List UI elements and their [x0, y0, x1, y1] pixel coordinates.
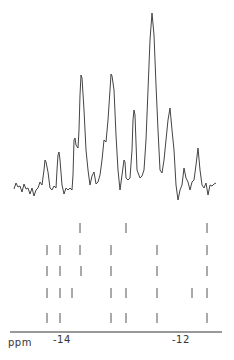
spectrum-trace: [14, 13, 216, 200]
stick-pattern-rows: [47, 223, 207, 323]
nmr-spectrum-figure: [0, 0, 234, 360]
x-tick-label-minus12: -12: [172, 334, 190, 345]
x-tick-label-minus14: -14: [53, 334, 71, 345]
x-axis-unit-label: ppm: [8, 337, 32, 348]
